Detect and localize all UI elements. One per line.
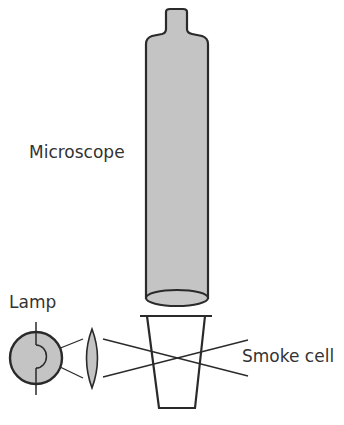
smoke-cell [140, 316, 212, 408]
microscope [146, 9, 208, 306]
lens [87, 329, 98, 388]
lamp-label: Lamp [9, 292, 56, 312]
smoke-cell-label: Smoke cell [242, 346, 334, 366]
microscope-label: Microscope [29, 142, 125, 162]
lamp [10, 322, 62, 395]
